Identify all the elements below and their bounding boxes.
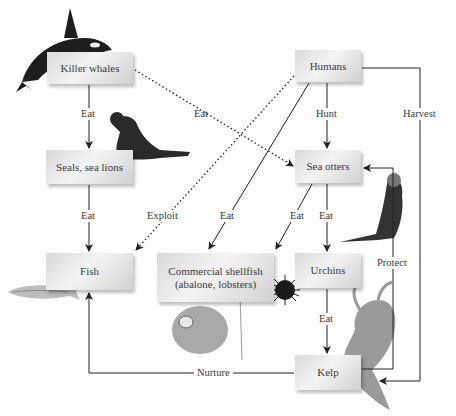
edge-label-otters-eat-shellfish: Eat [289, 210, 305, 222]
kelp-illustration [344, 282, 396, 410]
node-sublabel: (abalone, lobsters) [175, 278, 256, 291]
node-seals-sea-lions: Seals, sea lions [46, 150, 133, 184]
edge-label-kelp-nurture-fish: Nurture [194, 367, 233, 379]
edge-label-whales-eat-seals: Eat [80, 108, 96, 120]
node-label: Humans [310, 60, 347, 73]
node-label: Commercial shellfish [168, 265, 262, 278]
node-label: Sea otters [306, 160, 349, 173]
edge-label-kelp-protect-otters: Protect [376, 257, 408, 269]
node-killer-whales: Killer whales [47, 52, 133, 84]
edge-label-urchins-eat-kelp: Eat [318, 313, 334, 325]
edge-label-whales-eat-otters: Eat [193, 108, 209, 120]
node-label: Urchins [311, 264, 346, 277]
node-fish: Fish [46, 253, 133, 290]
node-sea-otters: Sea otters [295, 150, 361, 183]
edge-label-humans-eat-shellfish: Eat [219, 210, 235, 222]
node-humans: Humans [295, 50, 361, 82]
node-kelp: Kelp [295, 355, 361, 390]
node-label: Kelp [317, 366, 338, 379]
node-label: Killer whales [61, 62, 120, 75]
edge-label-humans-harvest-kelp: Harvest [402, 108, 437, 120]
node-commercial-shellfish: Commercial shellfish (abalone, lobsters) [157, 253, 274, 302]
node-label: Fish [80, 265, 99, 278]
node-urchins: Urchins [295, 253, 361, 288]
edge-label-seals-eat-fish: Eat [80, 210, 96, 222]
edge-label-humans-exploit-fish: Exploit [146, 210, 179, 222]
node-label: Seals, sea lions [56, 161, 123, 174]
edge-label-otters-eat-urchins: Eat [318, 210, 334, 222]
abalone-illustration [172, 295, 242, 360]
edge-label-humans-hunt-otters: Hunt [315, 108, 338, 120]
